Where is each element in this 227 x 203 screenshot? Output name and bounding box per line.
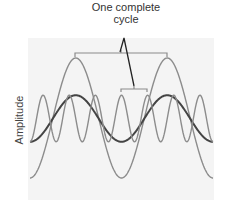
wave-diagram [0,0,227,203]
plot-background [28,38,214,200]
y-axis-label: Amplitude [13,96,25,145]
